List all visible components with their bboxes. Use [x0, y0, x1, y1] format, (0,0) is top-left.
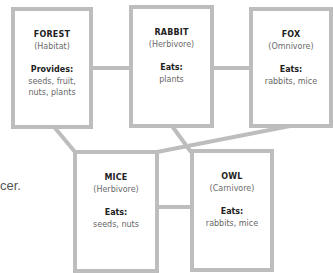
node-mice: MICE (Herbivore) Eats: seeds, nuts [73, 150, 159, 273]
node-role: (Herbivore) [77, 184, 155, 196]
node-label: Eats: [253, 64, 329, 76]
node-value: rabbits, mice [194, 218, 270, 230]
node-value: nuts, plants [15, 87, 89, 99]
node-rabbit: RABBIT (Herbivore) Eats: plants [129, 5, 214, 128]
node-label: Eats: [77, 207, 155, 219]
node-value: seeds, nuts [77, 219, 155, 231]
node-owl: OWL (Carnivore) Eats: rabbits, mice [190, 149, 274, 272]
node-title: OWL [194, 171, 270, 183]
node-title: MICE [77, 172, 155, 184]
node-title: RABBIT [133, 27, 210, 39]
truncated-body-text: cer. [0, 178, 21, 193]
node-label: Eats: [133, 62, 210, 74]
node-forest: FOREST (Habitat) Provides: seeds, fruit,… [11, 7, 93, 129]
node-fox: FOX (Omnivore) Eats: rabbits, mice [249, 7, 333, 128]
node-title: FOX [253, 29, 329, 41]
node-label: Provides: [15, 64, 89, 76]
node-title: FOREST [15, 29, 89, 41]
node-role: (Herbivore) [133, 39, 210, 51]
node-label: Eats: [194, 206, 270, 218]
node-role: (Omnivore) [253, 41, 329, 53]
node-role: (Carnivore) [194, 183, 270, 195]
node-value: plants [133, 74, 210, 86]
edge-forest-mice [55, 128, 75, 152]
node-value: rabbits, mice [253, 76, 329, 88]
node-value: seeds, fruit, [15, 76, 89, 88]
node-role: (Habitat) [15, 41, 89, 53]
